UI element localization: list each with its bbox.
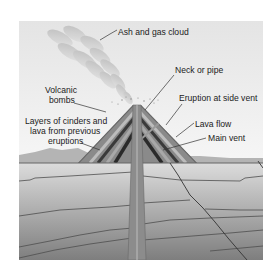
label-bombs-2: bombs [49, 95, 75, 105]
label-bombs-1: Volcanic [45, 85, 78, 95]
label-neck: Neck or pipe [175, 65, 223, 75]
label-lava-flow: Lava flow [195, 119, 232, 129]
label-main-vent: Main vent [208, 133, 246, 143]
label-layers-3: eruptions [48, 136, 83, 146]
label-side-vent: Eruption at side vent [179, 93, 258, 103]
label-layers-2: lava from previous [30, 126, 100, 136]
label-layers-1: Layers of cinders and [25, 116, 107, 126]
label-ash-cloud: Ash and gas cloud [118, 27, 189, 37]
volcano-diagram: Ash and gas cloud Neck or pipe Volcanic … [0, 0, 275, 277]
